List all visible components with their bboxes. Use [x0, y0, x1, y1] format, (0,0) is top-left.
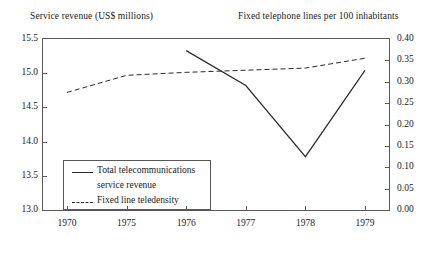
series-line-2: [67, 58, 365, 92]
right-tick-mark: [385, 146, 390, 147]
right-tick-0.30: 0.30: [397, 76, 414, 86]
x-tick-mark: [305, 206, 306, 211]
legend-label-total-revenue-line1: Total telecommunications: [97, 165, 195, 175]
left-tick-15.5: 15.5: [0, 33, 38, 43]
left-tick-15.0: 15.0: [0, 67, 38, 77]
x-tick-mark: [365, 206, 366, 211]
legend-swatch-solid-line: [72, 172, 93, 173]
x-tick-1977: 1977: [223, 218, 269, 228]
series-line-1: [186, 51, 365, 157]
x-tick-1970: 1970: [44, 218, 90, 228]
left-tick-14.0: 14.0: [0, 136, 38, 146]
right-tick-mark: [385, 103, 390, 104]
right-tick-0.15: 0.15: [397, 140, 414, 150]
left-tick-mark: [42, 107, 47, 108]
x-tick-1976: 1976: [163, 218, 209, 228]
right-tick-0.05: 0.05: [397, 183, 414, 193]
right-tick-mark: [385, 167, 390, 168]
right-tick-0.10: 0.10: [397, 161, 414, 171]
right-tick-0.00: 0.00: [397, 204, 414, 214]
chart-figure: Service revenue (US$ millions) Fixed tel…: [0, 0, 439, 262]
legend-label-total-revenue-line2: service revenue: [97, 180, 156, 190]
left-tick-13.0: 13.0: [0, 204, 38, 214]
right-tick-0.40: 0.40: [397, 33, 414, 43]
x-tick-mark: [127, 206, 128, 211]
left-tick-mark: [42, 73, 47, 74]
x-tick-mark: [186, 206, 187, 211]
right-tick-mark: [385, 60, 390, 61]
right-tick-mark: [385, 82, 390, 83]
x-tick-mark: [246, 206, 247, 211]
right-axis-title: Fixed telephone lines per 100 inhabitant…: [238, 11, 399, 21]
chart-legend: Total telecommunications service revenue…: [63, 160, 211, 210]
x-tick-1975: 1975: [104, 218, 150, 228]
x-tick-1979: 1979: [342, 218, 388, 228]
right-tick-0.25: 0.25: [397, 97, 414, 107]
left-tick-mark: [42, 176, 47, 177]
x-tick-mark: [67, 206, 68, 211]
left-tick-13.5: 13.5: [0, 170, 38, 180]
right-tick-0.20: 0.20: [397, 119, 414, 129]
left-axis-title: Service revenue (US$ millions): [30, 11, 153, 21]
left-tick-mark: [42, 142, 47, 143]
right-tick-0.35: 0.35: [397, 54, 414, 64]
right-tick-mark: [385, 189, 390, 190]
legend-label-teledensity: Fixed line teledensity: [97, 195, 179, 205]
legend-swatch-dashed-line: [72, 202, 93, 203]
left-tick-14.5: 14.5: [0, 101, 38, 111]
right-tick-mark: [385, 125, 390, 126]
x-tick-1978: 1978: [282, 218, 328, 228]
